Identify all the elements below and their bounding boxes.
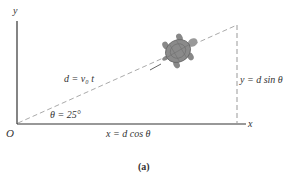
horizontal-component-label: x = d cos θ xyxy=(106,129,150,139)
hypotenuse-label: d = v₀ t xyxy=(64,74,94,84)
turtle-icon xyxy=(155,27,205,73)
vector-diagram xyxy=(0,0,287,175)
figure-caption: (a) xyxy=(138,162,150,172)
angle-label: θ = 25° xyxy=(50,110,81,120)
vertical-component-label: y = d sin θ xyxy=(240,75,283,85)
turtle-tail xyxy=(150,64,161,70)
origin-label: O xyxy=(6,128,14,139)
y-axis-label: y xyxy=(13,6,17,16)
x-axis-label: x xyxy=(248,119,252,129)
